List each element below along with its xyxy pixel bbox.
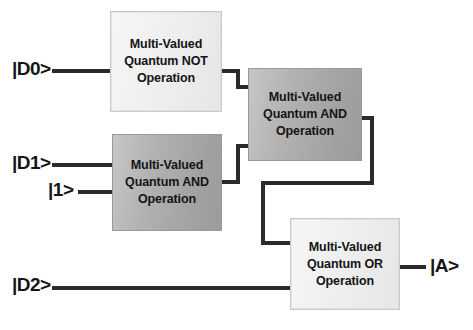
gate-or-line1: Multi-Valued xyxy=(309,239,381,256)
gate-or-line3: Operation xyxy=(316,273,374,290)
wire-and-left-to-and-top xyxy=(222,146,248,182)
wire-layer xyxy=(0,0,473,330)
gate-not-line2: Quantum NOT xyxy=(124,53,208,70)
gate-not-line1: Multi-Valued xyxy=(130,36,202,53)
multi-valued-quantum-and-operation-top-block[interactable]: Multi-Valued Quantum AND Operation xyxy=(248,68,362,161)
gate-and-top-line2: Quantum AND xyxy=(263,106,347,123)
output-port-a: |A> xyxy=(430,255,459,277)
gate-or-line2: Quantum OR xyxy=(307,256,383,273)
gate-and-left-line1: Multi-Valued xyxy=(131,157,203,174)
gate-and-left-line2: Quantum AND xyxy=(125,174,209,191)
gate-and-top-line3: Operation xyxy=(276,123,334,140)
multi-valued-quantum-or-operation-block[interactable]: Multi-Valued Quantum OR Operation xyxy=(290,218,400,310)
gate-and-left-line3: Operation xyxy=(138,191,196,208)
gate-and-top-line1: Multi-Valued xyxy=(269,89,341,106)
diagram-canvas: Multi-Valued Quantum NOT Operation Multi… xyxy=(0,0,473,330)
wire-not-to-and-top xyxy=(222,71,248,87)
gate-not-line3: Operation xyxy=(137,70,195,87)
input-port-d1: |D1> xyxy=(12,152,51,174)
multi-valued-quantum-and-operation-left-block[interactable]: Multi-Valued Quantum AND Operation xyxy=(112,134,222,231)
input-port-d2: |D2> xyxy=(12,274,51,296)
multi-valued-quantum-not-operation-block[interactable]: Multi-Valued Quantum NOT Operation xyxy=(110,11,222,112)
input-port-d0: |D0> xyxy=(12,58,51,80)
input-port-one: |1> xyxy=(48,179,73,201)
